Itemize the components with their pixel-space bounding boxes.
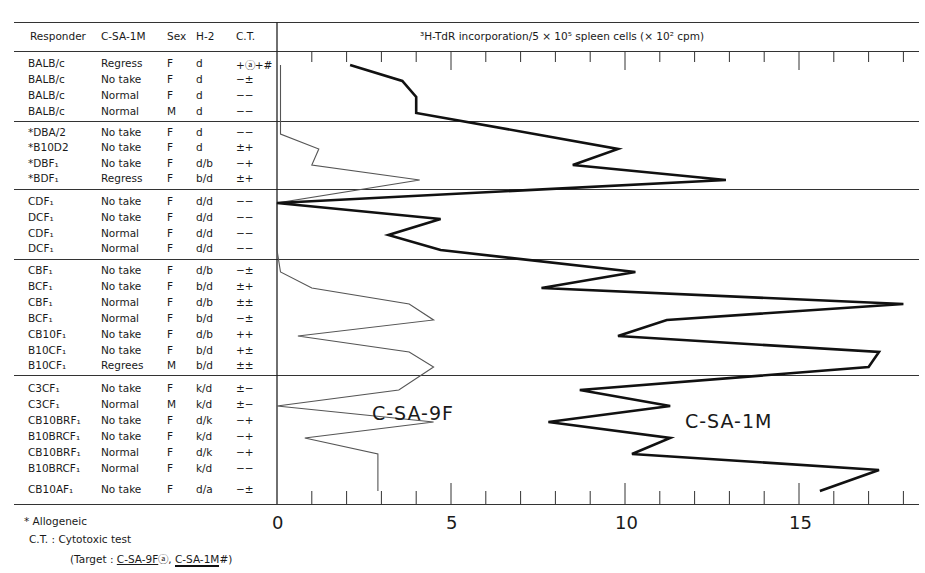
footnote-target: (Target : C-SA-9Fⓐ, C-SA-1M#) <box>70 551 232 566</box>
chart-plot <box>0 0 925 573</box>
target-prefix: (Target : <box>70 553 117 565</box>
label-c-sa-9f: C-SA-9F <box>372 402 454 424</box>
footnote-allogeneic: * Allogeneic <box>24 515 87 527</box>
target-1m: C-SA-1M <box>175 553 219 567</box>
x-tick-label: 10 <box>615 512 638 533</box>
x-tick-label: 0 <box>272 512 283 533</box>
x-tick-label: 5 <box>446 512 457 533</box>
x-tick-label: 15 <box>789 512 812 533</box>
target-suffix: #) <box>219 553 232 565</box>
label-c-sa-1m: C-SA-1M <box>685 410 772 432</box>
target-sep: ⓐ, <box>158 553 175 565</box>
footnote-ct: C.T. : Cytotoxic test <box>29 533 131 545</box>
target-9f: C-SA-9F <box>117 553 158 565</box>
